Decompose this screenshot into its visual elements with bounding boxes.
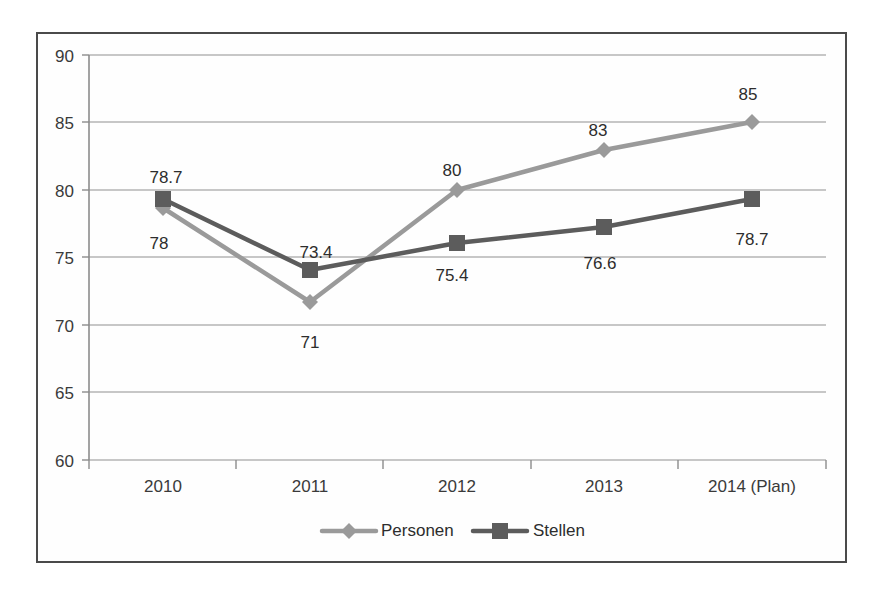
data-label-personen-2012: 80 <box>443 161 462 180</box>
x-axis-ticks <box>89 460 826 469</box>
series-stellen <box>155 191 760 278</box>
marker-diamond-2013 <box>596 142 612 158</box>
x-tick-label-2013: 2013 <box>585 477 623 496</box>
marker-square-2012 <box>449 235 465 251</box>
legend-marker-square-icon <box>492 523 508 539</box>
data-label-stellen-2011: 73.4 <box>299 243 332 262</box>
legend-label-stellen: Stellen <box>533 521 585 540</box>
marker-diamond-2014 <box>744 114 760 130</box>
y-tick-label-60: 60 <box>55 452 74 471</box>
marker-square-2011 <box>302 262 318 278</box>
legend-item-personen[interactable]: Personen <box>322 521 454 540</box>
data-label-stellen-2013: 76.6 <box>583 254 616 273</box>
chart-legend: Personen Stellen <box>322 521 585 540</box>
series-stellen-line <box>163 199 752 270</box>
x-tick-label-2014-plan: 2014 (Plan) <box>708 477 796 496</box>
data-label-personen-2011: 71 <box>301 333 320 352</box>
data-labels-personen: 78 71 80 83 85 <box>150 85 758 352</box>
line-chart-plot: 90 85 80 75 70 65 60 2010 2011 2012 2013… <box>0 0 884 601</box>
y-tick-label-80: 80 <box>55 182 74 201</box>
gridlines <box>89 55 826 460</box>
y-tick-label-90: 90 <box>55 47 74 66</box>
y-axis-tick-labels: 90 85 80 75 70 65 60 <box>55 47 74 471</box>
chart-figure: 90 85 80 75 70 65 60 2010 2011 2012 2013… <box>0 0 884 601</box>
x-tick-label-2011: 2011 <box>292 477 329 496</box>
data-label-personen-2010: 78 <box>150 234 169 253</box>
marker-square-2014 <box>744 191 760 207</box>
y-tick-label-75: 75 <box>55 249 74 268</box>
x-tick-label-2010: 2010 <box>144 477 182 496</box>
y-tick-label-85: 85 <box>55 114 74 133</box>
legend-label-personen: Personen <box>381 521 454 540</box>
data-label-personen-2013: 83 <box>589 121 608 140</box>
data-label-stellen-2012: 75.4 <box>435 266 468 285</box>
series-stellen-markers <box>155 191 760 278</box>
data-label-stellen-2010: 78.7 <box>149 168 182 187</box>
marker-square-2013 <box>596 219 612 235</box>
y-tick-label-70: 70 <box>55 317 74 336</box>
legend-marker-diamond-icon <box>341 523 357 539</box>
data-label-personen-2014: 85 <box>739 85 758 104</box>
y-axis <box>82 55 89 460</box>
data-label-stellen-2014: 78.7 <box>735 230 768 249</box>
legend-item-stellen[interactable]: Stellen <box>473 521 585 540</box>
marker-square-2010 <box>155 191 171 207</box>
x-axis-tick-labels: 2010 2011 2012 2013 2014 (Plan) <box>144 477 796 496</box>
y-tick-label-65: 65 <box>55 384 74 403</box>
x-tick-label-2012: 2012 <box>438 477 476 496</box>
